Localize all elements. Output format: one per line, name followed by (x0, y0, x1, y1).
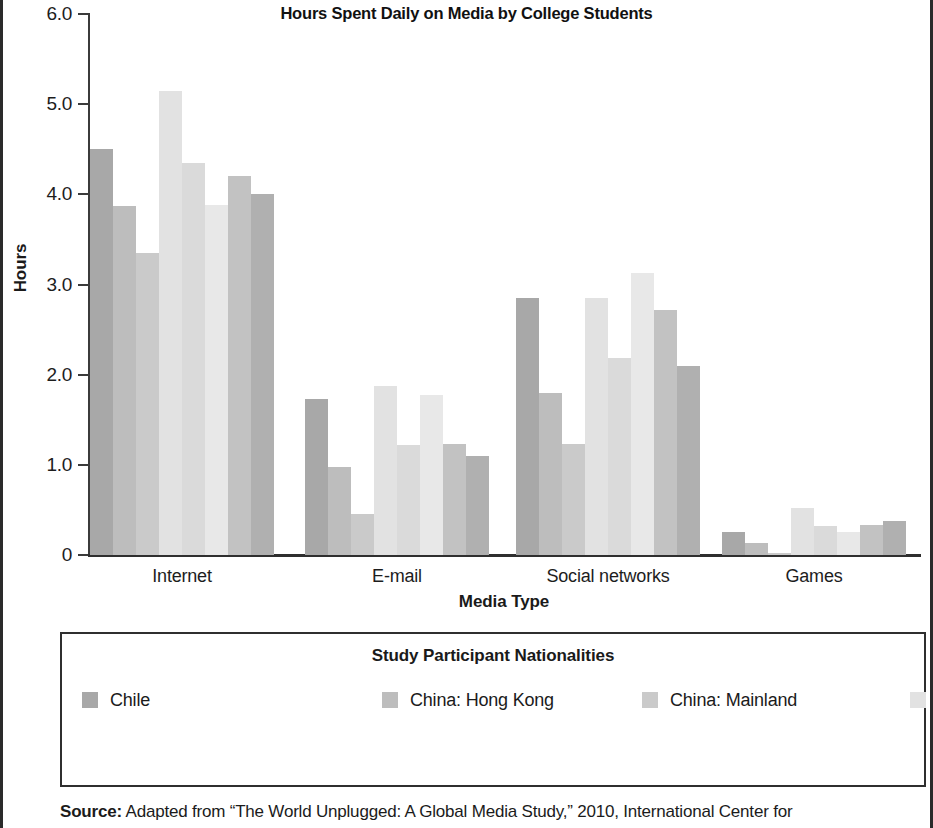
bar (516, 298, 539, 555)
y-tick-label: 6.0 (14, 3, 72, 25)
source-text: Adapted from “The World Unplugged: A Glo… (122, 802, 792, 821)
bar (791, 508, 814, 555)
y-tick-label: 1.0 (14, 454, 72, 476)
bar (768, 553, 791, 555)
legend-label: China: Hong Kong (410, 690, 554, 711)
bar (631, 273, 654, 555)
bar (182, 163, 205, 555)
source-note: Source: Adapted from “The World Unplugge… (60, 802, 920, 822)
legend-swatch-icon (382, 692, 398, 708)
y-tick-label: 4.0 (14, 183, 72, 205)
legend-item: Chile (82, 690, 382, 711)
bar-group-internet (90, 14, 274, 555)
bar (351, 514, 374, 555)
bar (90, 149, 113, 555)
bar (539, 393, 562, 555)
y-tick-label: 0 (14, 544, 72, 566)
bar (608, 358, 631, 555)
legend-swatch-icon (642, 692, 658, 708)
bar (814, 526, 837, 555)
chart-area: Hours Spent Daily on Media by College St… (0, 0, 933, 620)
bar-group-social-networks (516, 14, 700, 555)
x-tick-label: Games (662, 566, 933, 587)
bar (562, 444, 585, 555)
y-tick-label: 2.0 (14, 364, 72, 386)
bar-group-games (722, 14, 906, 555)
bar (860, 525, 883, 555)
bar (328, 467, 351, 555)
bar (113, 206, 136, 555)
bar-group-e-mail (305, 14, 489, 555)
bar (251, 194, 274, 555)
bar (466, 456, 489, 555)
bar (159, 91, 182, 555)
legend-swatch-icon (82, 692, 98, 708)
bar (443, 444, 466, 555)
bar (397, 445, 420, 555)
legend-item: China: Mainland (642, 690, 910, 711)
bar (374, 386, 397, 555)
source-label: Source: (60, 802, 122, 821)
bar (654, 310, 677, 555)
bar (677, 366, 700, 555)
legend-label: Chile (110, 690, 150, 711)
legend-item: China: Hong Kong (382, 690, 642, 711)
bar (745, 543, 768, 555)
legend-items: ChileChina: Hong KongChina: MainlandLeba… (82, 682, 910, 718)
y-axis-tick-labels: 01.02.03.04.05.06.0 (0, 0, 72, 620)
plot-bars-container (88, 14, 920, 555)
bar (305, 399, 328, 555)
bar (585, 298, 608, 555)
legend-item: Lebanon (910, 690, 933, 711)
x-axis-label: Media Type (88, 592, 920, 612)
bar (420, 395, 443, 555)
bar (883, 521, 906, 555)
legend-title: Study Participant Nationalities (62, 646, 924, 666)
legend-label: China: Mainland (670, 690, 797, 711)
legend-box: Study Participant Nationalities ChileChi… (60, 632, 926, 787)
bar (205, 205, 228, 555)
bar (837, 532, 860, 555)
y-tick-label: 5.0 (14, 93, 72, 115)
bar (228, 176, 251, 555)
legend-swatch-icon (910, 692, 926, 708)
figure-container: Hours Spent Daily on Media by College St… (0, 0, 933, 828)
bar (136, 253, 159, 555)
bar (722, 532, 745, 555)
y-tick-label: 3.0 (14, 274, 72, 296)
